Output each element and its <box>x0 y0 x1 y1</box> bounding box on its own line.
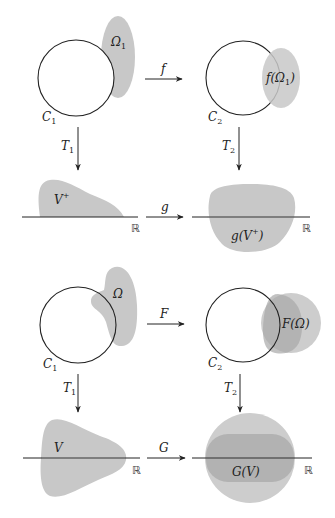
label-real-right: ℝ <box>302 222 311 235</box>
label-c1: C1 <box>42 110 56 126</box>
label-F: F <box>159 307 169 321</box>
label-f: f <box>160 62 168 76</box>
label-G: G <box>159 441 169 455</box>
label-real-right-lower: ℝ <box>304 464 313 477</box>
label-f-omega: F(Ω) <box>281 317 310 331</box>
label-real-left-lower: ℝ <box>132 464 141 477</box>
top-diagram: Ω1 C1 f f(Ω1) C2 T1 T2 V+ ℝ g g(V+) ℝ <box>22 16 311 252</box>
circle-c1-lower <box>40 287 116 363</box>
label-c1-lower: C1 <box>43 357 57 373</box>
label-c2-lower: C2 <box>208 356 222 372</box>
label-omega: Ω <box>112 287 123 301</box>
label-g: g <box>161 200 169 214</box>
commutative-diagrams: Ω1 C1 f f(Ω1) C2 T1 T2 V+ ℝ g g(V+) ℝ <box>0 0 335 518</box>
label-t2: T2 <box>222 139 235 155</box>
label-t1: T1 <box>61 139 74 155</box>
region-v-plus <box>39 180 124 217</box>
label-t1-lower: T1 <box>63 381 76 397</box>
region-omega <box>91 267 137 346</box>
circle-c1 <box>38 40 114 116</box>
label-g-v-plus: g(V+) <box>231 227 264 243</box>
label-v: V <box>54 441 64 455</box>
label-g-v: G(V) <box>232 465 260 479</box>
bottom-diagram: Ω C1 F F(Ω) C2 T1 T2 V ℝ G G(V) ℝ <box>23 267 321 503</box>
label-c2: C2 <box>208 110 222 126</box>
label-real-left: ℝ <box>131 222 140 235</box>
label-f-omega1: f(Ω1) <box>265 71 295 87</box>
label-t2-lower: T2 <box>224 381 237 397</box>
